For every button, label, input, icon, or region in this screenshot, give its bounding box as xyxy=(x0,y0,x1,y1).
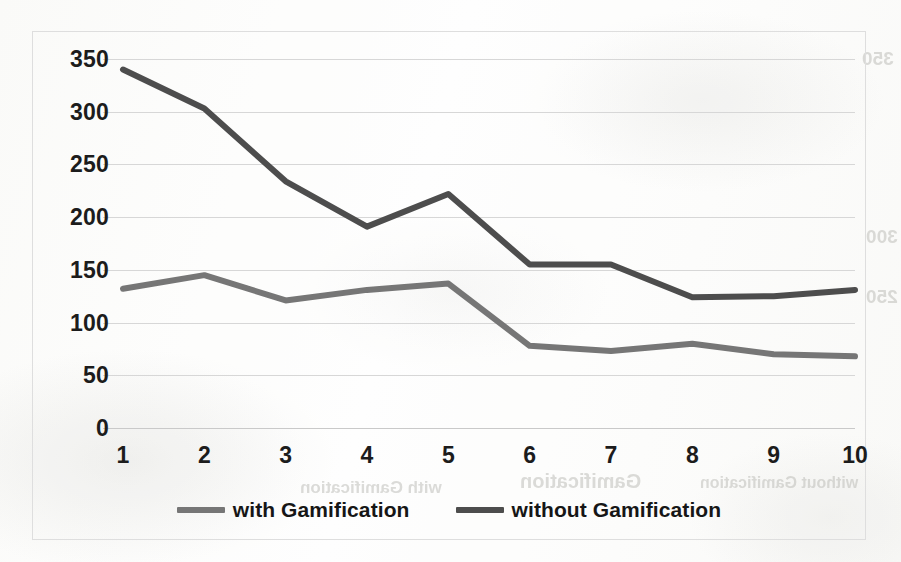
x-axis-tick-label: 9 xyxy=(767,442,780,469)
x-axis-tick-label: 10 xyxy=(842,442,868,469)
x-axis-tick-label: 7 xyxy=(605,442,618,469)
y-axis-tick-label: 200 xyxy=(70,204,109,231)
y-axis-tick-label: 350 xyxy=(70,46,109,73)
bleed-through-text: 250 xyxy=(866,286,898,308)
x-axis-tick-label: 3 xyxy=(279,442,292,469)
legend-swatch-icon xyxy=(456,507,504,513)
series-line-with-gamification xyxy=(123,275,855,356)
x-axis-tick-label: 4 xyxy=(361,442,374,469)
legend-item-without-gamification[interactable]: without Gamification xyxy=(456,498,722,522)
legend-swatch-icon xyxy=(177,507,225,513)
series-lines xyxy=(123,59,855,428)
series-line-without-gamification xyxy=(123,70,855,298)
bleed-through-text: 350 xyxy=(862,48,894,70)
chart-legend: with Gamification without Gamification xyxy=(33,498,865,522)
legend-label: with Gamification xyxy=(233,498,410,522)
plot-area: 050100150200250300350 12345678910 xyxy=(123,59,855,428)
y-axis-tick-label: 300 xyxy=(70,98,109,125)
y-axis-tick-label: 150 xyxy=(70,256,109,283)
chart-plot-frame: 050100150200250300350 12345678910 with G… xyxy=(32,31,866,540)
legend-label: without Gamification xyxy=(512,498,722,522)
x-axis-tick-label: 5 xyxy=(442,442,455,469)
y-axis-tick-label: 100 xyxy=(70,309,109,336)
x-axis-tick-label: 8 xyxy=(686,442,699,469)
x-axis-tick-label: 6 xyxy=(523,442,536,469)
x-axis-tick-label: 2 xyxy=(198,442,211,469)
gridline xyxy=(103,428,855,429)
y-axis-tick-label: 50 xyxy=(83,362,109,389)
scanned-chart-page: with Gamification Gamification without G… xyxy=(0,0,901,562)
bleed-through-text: 300 xyxy=(866,226,898,248)
y-axis-tick-label: 250 xyxy=(70,151,109,178)
x-axis-tick-label: 1 xyxy=(117,442,130,469)
y-axis-tick-label: 0 xyxy=(96,415,109,442)
legend-item-with-gamification[interactable]: with Gamification xyxy=(177,498,410,522)
